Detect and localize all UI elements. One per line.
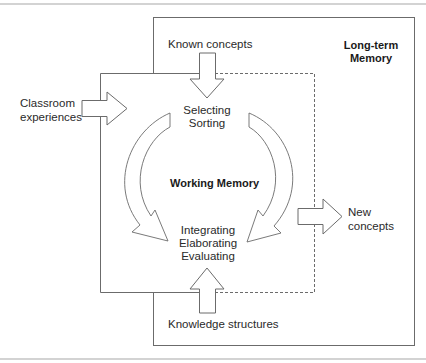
new-concepts-line2: concepts [348,219,394,233]
classroom-experiences-label: Classroom experiences [20,96,82,124]
classroom-line2: experiences [20,110,82,124]
integrating-elaborating-evaluating-label: Integrating Elaborating Evaluating [168,224,248,263]
classroom-line1: Classroom [20,96,82,110]
ltm-label-line1: Long-term [336,39,406,52]
sorting-text: Sorting [172,117,242,130]
ltm-label-line2: Memory [336,52,406,65]
working-memory-label: Working Memory [170,177,259,190]
long-term-memory-label: Long-term Memory [336,39,406,65]
elaborating-text: Elaborating [168,237,248,250]
knowledge-structures-label: Knowledge structures [168,318,279,331]
known-concepts-label: Known concepts [168,38,252,51]
new-concepts-line1: New [348,205,394,219]
evaluating-text: Evaluating [168,250,248,263]
new-concepts-label: New concepts [348,205,394,233]
selecting-sorting-label: Selecting Sorting [172,104,242,130]
selecting-text: Selecting [172,104,242,117]
integrating-text: Integrating [168,224,248,237]
